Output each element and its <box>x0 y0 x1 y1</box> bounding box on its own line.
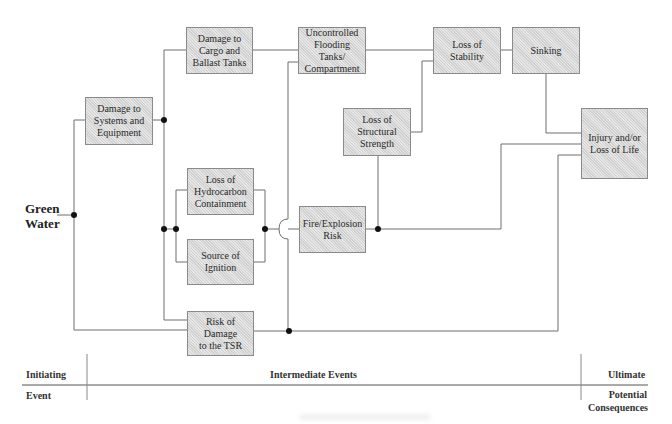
footer-potential: Potential <box>599 389 647 400</box>
box-loss-stability: Loss ofStability <box>433 27 501 74</box>
box-loss-structural-strength: Loss ofStructuralStrength <box>343 108 411 156</box>
junction-node <box>262 226 268 232</box>
box-loss-hydrocarbon: Loss ofHydrocarbonContainment <box>187 168 254 215</box>
footer-event: Event <box>26 390 51 401</box>
figure-caption-blurred <box>300 414 430 420</box>
footer-consequences: Consequences <box>581 402 648 413</box>
box-injury-loss-of-life: Injury and/orLoss of Life <box>581 108 648 179</box>
junction-node <box>286 328 292 334</box>
initiating-event-label: Green Water <box>25 201 60 231</box>
box-fire-explosion: Fire/ExplosionRisk <box>299 206 366 253</box>
box-risk-damage-tsr: Risk of Damageto the TSR <box>187 311 254 356</box>
junction-node <box>173 226 179 232</box>
junction-node <box>375 226 381 232</box>
box-source-ignition: Source ofIgnition <box>187 239 254 285</box>
junction-node <box>161 117 167 123</box>
junction-node <box>161 226 167 232</box>
footer-intermediate-events: Intermediate Events <box>270 369 357 380</box>
footer-initiating: Initiating <box>26 369 66 380</box>
box-damage-systems: Damage toSystems andEquipment <box>85 97 153 145</box>
junction-node <box>71 212 77 218</box>
box-sinking: Sinking <box>512 27 580 74</box>
footer-ultimate: Ultimate <box>608 369 645 380</box>
box-uncontrolled-flooding: UncontrolledFloodingTanks/Compartment <box>298 27 366 74</box>
box-damage-cargo: Damage toCargo andBallast Tanks <box>186 27 253 74</box>
